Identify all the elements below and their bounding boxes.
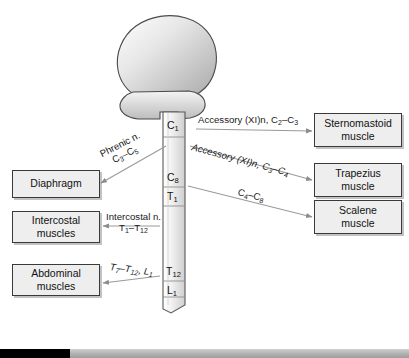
sternomastoid-line1: Sternomastoid bbox=[324, 117, 392, 130]
cord-label-l1: L1 bbox=[167, 284, 177, 296]
muscle-box-abdominal: Abdominal muscles bbox=[12, 264, 100, 296]
trapezius-line2: muscle bbox=[335, 180, 381, 193]
cord-label-c1: C1 bbox=[167, 119, 179, 131]
intercostal-line2: muscles bbox=[32, 227, 80, 240]
muscle-box-diaphragm: Diaphragm bbox=[12, 170, 100, 198]
scalene-line1: Scalene bbox=[339, 204, 377, 217]
spinal-cord-shape bbox=[163, 112, 185, 313]
abdominal-line1: Abdominal bbox=[31, 267, 81, 280]
figure-canvas: Sternomastoid muscle Trapezius muscle Sc… bbox=[0, 0, 409, 358]
cord-label-t12: T12 bbox=[166, 265, 181, 277]
intercostal-levels: T1–T12 bbox=[106, 222, 161, 233]
muscle-box-scalene: Scalene muscle bbox=[314, 200, 402, 234]
cord-label-c8: C8 bbox=[167, 171, 179, 183]
footer-progress-bar[interactable] bbox=[0, 349, 409, 358]
abdominal-line2: muscles bbox=[31, 280, 81, 293]
diaphragm-line1: Diaphragm bbox=[30, 177, 81, 190]
muscle-box-intercostal: Intercostal muscles bbox=[12, 211, 100, 243]
intercostal-nerve-name: Intercostal n. bbox=[106, 211, 161, 222]
intercostal-line1: Intercostal bbox=[32, 214, 80, 227]
arrow-to-sternomastoid bbox=[196, 129, 312, 131]
muscle-box-trapezius: Trapezius muscle bbox=[314, 163, 402, 197]
scalene-line2: muscle bbox=[339, 217, 377, 230]
cerebrum-shape bbox=[117, 16, 216, 99]
pathway-label-intercostal: Intercostal n. T1–T12 bbox=[106, 211, 161, 233]
muscle-box-sternomastoid: Sternomastoid muscle bbox=[314, 113, 402, 147]
footer-progress-fill bbox=[0, 349, 70, 358]
pathway-label-accessory-sternomastoid: Accessory (XI)n, C2–C3 bbox=[198, 114, 298, 125]
cord-label-t1: T1 bbox=[167, 190, 178, 202]
trapezius-line1: Trapezius bbox=[335, 167, 381, 180]
sternomastoid-line2: muscle bbox=[324, 130, 392, 143]
